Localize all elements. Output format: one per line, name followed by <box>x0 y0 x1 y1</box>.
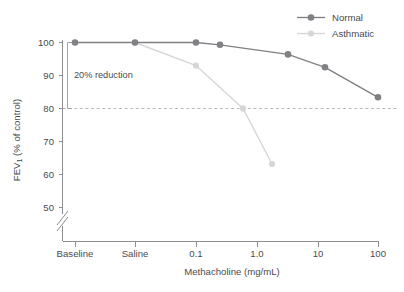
line-chart: 100 90 80 70 60 50 Baseline Saline 0.1 1… <box>0 0 404 292</box>
svg-text:FEV1 (% of control): FEV1 (% of control) <box>11 99 24 181</box>
asthmatic-point <box>269 161 275 167</box>
normal-point <box>132 39 139 46</box>
legend-label: Normal <box>332 12 363 23</box>
chart-figure: 100 90 80 70 60 50 Baseline Saline 0.1 1… <box>0 0 404 292</box>
y-tick-labels: 100 90 80 70 60 50 <box>38 37 54 213</box>
series-asthmatic <box>132 39 275 167</box>
reduction-annotation-label: 20% reduction <box>74 70 133 80</box>
y-tick-label: 80 <box>43 103 54 114</box>
y-tick-label: 60 <box>43 169 54 180</box>
asthmatic-point <box>240 105 246 111</box>
legend-marker-icon <box>308 14 315 21</box>
y-tick-label: 100 <box>38 37 54 48</box>
y-tick-label: 50 <box>43 202 54 213</box>
y-axis-title: FEV1 (% of control) <box>11 99 24 181</box>
normal-point <box>322 64 329 71</box>
y-tick-marks <box>59 43 63 208</box>
x-tick-label: 1.0 <box>250 248 263 259</box>
x-tick-label: Baseline <box>57 248 94 259</box>
normal-point <box>72 39 79 46</box>
normal-point <box>217 42 224 49</box>
normal-point <box>285 51 292 58</box>
x-tick-label: Saline <box>122 248 149 259</box>
y-axis <box>57 40 68 241</box>
normal-point <box>193 39 200 46</box>
legend-item-normal[interactable]: Normal <box>297 12 363 23</box>
x-axis-title: Methacholine (mg/mL) <box>184 266 279 277</box>
x-tick-label: 10 <box>313 248 324 259</box>
asthmatic-line <box>135 43 272 165</box>
x-tick-label: 100 <box>370 248 386 259</box>
y-tick-label: 70 <box>43 136 54 147</box>
y-tick-label: 90 <box>43 70 54 81</box>
reduction-bracket <box>68 43 73 109</box>
legend-label: Asthmatic <box>332 28 374 39</box>
legend-marker-icon <box>308 30 314 36</box>
y-axis-title-tail: (% of control) <box>11 99 22 159</box>
x-tick-labels: Baseline Saline 0.1 1.0 10 100 <box>57 248 386 259</box>
chart-legend: Normal Asthmatic <box>297 12 374 39</box>
y-axis-title-main: FEV <box>11 162 22 181</box>
legend-item-asthmatic[interactable]: Asthmatic <box>297 28 374 39</box>
x-tick-label: 0.1 <box>189 248 202 259</box>
normal-point <box>375 94 382 101</box>
asthmatic-point <box>193 63 199 69</box>
x-tick-marks <box>76 242 379 247</box>
